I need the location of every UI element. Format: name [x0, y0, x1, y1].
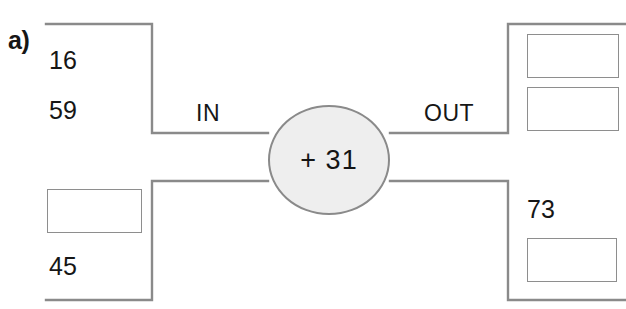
wire-in-top: [46, 24, 268, 133]
output-value-73: 73: [527, 197, 555, 222]
input-answer-box-blank[interactable]: [47, 189, 142, 233]
output-answer-box-2[interactable]: [527, 87, 619, 131]
input-value-16: 16: [49, 48, 77, 73]
part-label: a): [8, 28, 29, 53]
output-answer-box-1[interactable]: [527, 34, 619, 78]
output-answer-box-3[interactable]: [527, 238, 617, 282]
in-label: IN: [196, 102, 220, 125]
function-machine-node: + 31: [268, 105, 390, 215]
input-value-45: 45: [49, 254, 77, 279]
function-rule-text: + 31: [300, 145, 357, 176]
out-label: OUT: [424, 102, 474, 125]
input-value-59: 59: [49, 98, 77, 123]
worksheet-function-machine: a) 16 59 45 IN OUT + 31 73: [0, 0, 626, 309]
